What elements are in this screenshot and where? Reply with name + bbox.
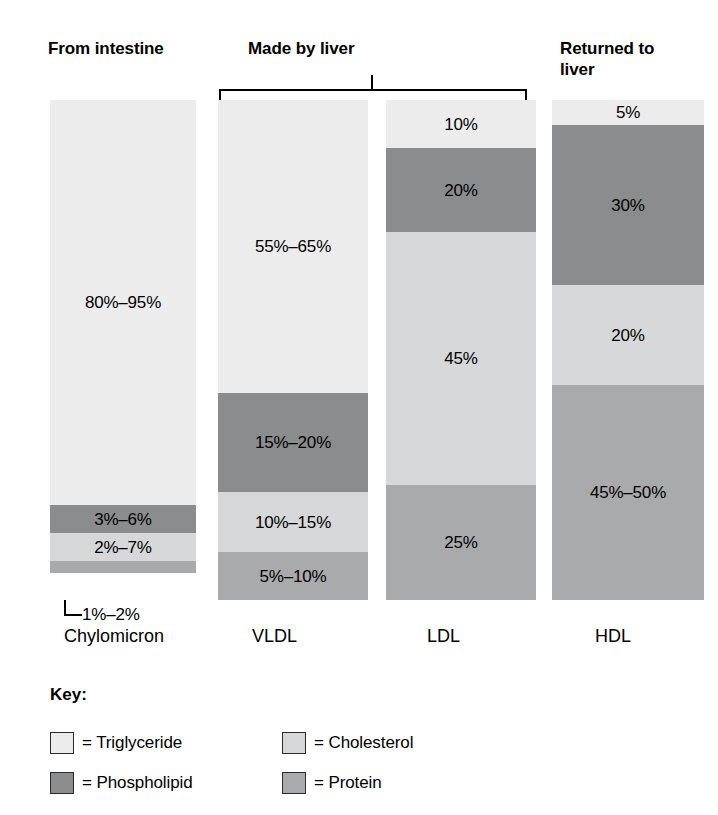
segment-value-label: 55%–65% <box>255 237 331 256</box>
bar-segment-vldl-protein[interactable]: 5%–10% <box>218 552 368 600</box>
segment-value-label: 3%–6% <box>94 510 152 529</box>
group-header-from-intestine: From intestine <box>48 38 164 59</box>
legend-label: = Phospholipid <box>82 773 193 793</box>
segment-value-label: 80%–95% <box>85 293 161 312</box>
legend: Key: = Triglyceride= Cholesterol= Phosph… <box>50 685 650 803</box>
legend-label: = Protein <box>314 773 382 793</box>
legend-item-protein[interactable]: = Protein <box>282 772 514 794</box>
segment-value-label: 45%–50% <box>590 483 666 502</box>
legend-swatch-cholesterol-icon <box>282 732 306 754</box>
bar-segment-hdl-cholesterol[interactable]: 20% <box>552 285 704 385</box>
stacked-bar-chylomicron[interactable]: 80%–95%3%–6%2%–7%1%–2% <box>50 100 196 600</box>
segment-value-label: 45% <box>444 349 477 368</box>
chart-canvas: From intestine Made by liver Returned to… <box>0 0 718 815</box>
bar-segment-ldl-cholesterol[interactable]: 45% <box>386 232 536 485</box>
stacked-bar-hdl[interactable]: 5%30%20%45%–50% <box>552 100 704 600</box>
segment-value-label: 25% <box>444 533 477 552</box>
legend-item-phospholipid[interactable]: = Phospholipid <box>50 772 282 794</box>
segment-value-label: 10% <box>444 115 477 134</box>
bar-segment-vldl-cholesterol[interactable]: 10%–15% <box>218 492 368 552</box>
bar-segment-chylomicron-cholesterol[interactable]: 2%–7% <box>50 533 196 561</box>
group-header-returned-to-liver: Returned to liver <box>560 38 700 80</box>
segment-value-label: 20% <box>611 326 644 345</box>
bar-segment-hdl-protein[interactable]: 45%–50% <box>552 385 704 600</box>
legend-swatch-protein-icon <box>282 772 306 794</box>
category-label-hdl: HDL <box>595 625 631 647</box>
legend-items: = Triglyceride= Cholesterol= Phospholipi… <box>50 723 650 803</box>
category-label-ldl: LDL <box>427 625 460 647</box>
segment-value-label: 10%–15% <box>255 513 331 532</box>
segment-value-label: 15%–20% <box>255 433 331 452</box>
bar-segment-vldl-phospholipid[interactable]: 15%–20% <box>218 393 368 492</box>
callout-leader-horizontal <box>64 614 82 616</box>
stacked-bar-ldl[interactable]: 10%20%45%25% <box>386 100 536 600</box>
group-header-made-by-liver: Made by liver <box>248 38 354 59</box>
bar-segment-ldl-protein[interactable]: 25% <box>386 485 536 600</box>
bar-segment-ldl-phospholipid[interactable]: 20% <box>386 148 536 232</box>
bar-segment-chylomicron-protein[interactable]: 1%–2% <box>50 561 196 573</box>
bar-segment-chylomicron-phospholipid[interactable]: 3%–6% <box>50 505 196 533</box>
segment-value-label: 2%–7% <box>94 538 152 557</box>
bar-segment-hdl-triglyceride[interactable]: 5% <box>552 100 704 125</box>
legend-label: = Triglyceride <box>82 733 182 753</box>
category-label-chylomicron: Chylomicron <box>64 625 164 647</box>
legend-item-triglyceride[interactable]: = Triglyceride <box>50 732 282 754</box>
category-label-vldl: VLDL <box>252 625 297 647</box>
legend-item-cholesterol[interactable]: = Cholesterol <box>282 732 514 754</box>
bar-segment-chylomicron-triglyceride[interactable]: 80%–95% <box>50 100 196 505</box>
segment-value-label: 5% <box>616 103 640 122</box>
segment-value-label: 30% <box>611 196 644 215</box>
segment-value-label: 5%–10% <box>260 567 327 586</box>
segment-value-label: 20% <box>444 181 477 200</box>
bar-segment-ldl-triglyceride[interactable]: 10% <box>386 100 536 148</box>
legend-swatch-phospholipid-icon <box>50 772 74 794</box>
bar-segment-vldl-triglyceride[interactable]: 55%–65% <box>218 100 368 393</box>
callout-label: 1%–2% <box>82 604 140 625</box>
legend-title: Key: <box>50 685 650 705</box>
bracket-span <box>219 89 527 91</box>
legend-label: = Cholesterol <box>314 733 413 753</box>
group-bracket-made-by-liver <box>219 75 527 99</box>
stacked-bar-vldl[interactable]: 55%–65%15%–20%10%–15%5%–10% <box>218 100 368 600</box>
legend-swatch-triglyceride-icon <box>50 732 74 754</box>
bar-segment-hdl-phospholipid[interactable]: 30% <box>552 125 704 285</box>
